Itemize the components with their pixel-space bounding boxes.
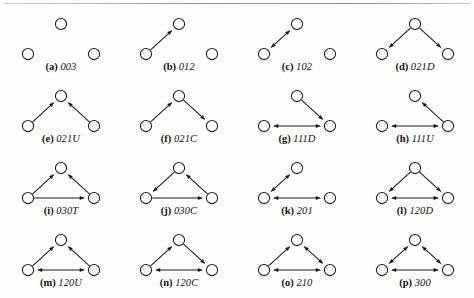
edge-top-to-right-asymmetric: [184, 100, 205, 119]
triad-node-left: [140, 48, 151, 59]
panel-caption-111D: (g) 111D: [238, 133, 356, 145]
triad-node-left: [22, 120, 33, 131]
triad-panel-300: (p) 300: [356, 224, 474, 296]
edge-top-to-left-asymmetric: [390, 28, 411, 47]
triad-node-top: [291, 90, 302, 101]
edge-left-to-top-asymmetric: [33, 175, 54, 194]
arrowhead-left-to-right: [316, 268, 320, 271]
edge-left-to-top-asymmetric: [33, 103, 54, 122]
triad-node-left: [376, 48, 387, 59]
triad-node-right: [88, 192, 99, 203]
panel-letter: (g): [278, 133, 290, 144]
triad-node-right: [442, 264, 453, 275]
triad-diagram-120U: [2, 224, 120, 280]
arrowhead-right-to-left: [156, 268, 160, 271]
panel-letter: (n): [160, 277, 173, 288]
edge-top-to-left-asymmetric: [154, 172, 175, 191]
panel-triad-code: 021D: [411, 61, 435, 72]
page-top-rule: [4, 3, 470, 4]
edge-top-to-right-asymmetric: [420, 172, 441, 191]
panel-letter: (j): [161, 205, 172, 216]
triad-panel-021D: (d) 021D: [356, 8, 474, 80]
triad-node-left: [140, 264, 151, 275]
panel-triad-code: 111D: [293, 133, 315, 144]
triad-census-figure: (a) 003(b) 012(c) 102(d) 021D(e) 021U(f)…: [0, 0, 474, 298]
triad-node-top: [55, 90, 66, 101]
triad-node-left: [376, 192, 387, 203]
triad-node-left: [22, 48, 33, 59]
arrowhead-right-to-left: [274, 124, 278, 127]
panel-letter: (p): [399, 277, 412, 288]
panel-letter: (b): [163, 61, 176, 72]
triad-diagram-111U: [356, 80, 474, 136]
panel-triad-code: 003: [60, 61, 76, 72]
arrowhead-left-to-right: [80, 268, 84, 271]
arrowhead-left-to-right: [80, 196, 84, 199]
triad-node-top: [409, 162, 420, 173]
arrowhead-right-to-left: [274, 196, 278, 199]
triad-node-right: [206, 192, 217, 203]
panel-letter: (c): [282, 61, 294, 72]
triad-panel-003: (a) 003: [2, 8, 120, 80]
triad-node-right: [442, 48, 453, 59]
arrowhead-right-to-left: [274, 268, 278, 271]
triad-diagram-030T: [2, 152, 120, 208]
panel-triad-code: 300: [415, 277, 431, 288]
triad-node-top: [55, 18, 66, 29]
triad-node-left: [22, 264, 33, 275]
panel-triad-code: 120C: [175, 277, 198, 288]
triad-node-right: [206, 264, 217, 275]
panel-triad-code: 030C: [174, 205, 197, 216]
edge-right-to-top-asymmetric: [69, 247, 90, 266]
edge-left-to-top-asymmetric: [151, 247, 172, 266]
triad-diagram-111D: [238, 80, 356, 136]
triad-node-top: [173, 18, 184, 29]
panel-caption-003: (a) 003: [2, 61, 120, 73]
panel-triad-code: 021U: [56, 133, 80, 144]
triad-node-top: [55, 162, 66, 173]
panel-caption-021C: (f) 021C: [120, 133, 238, 145]
panel-caption-021D: (d) 021D: [356, 61, 474, 73]
triad-diagram-102: [238, 8, 356, 64]
panel-letter: (k): [281, 205, 294, 216]
triad-node-top: [173, 234, 184, 245]
arrowhead-left-to-right: [434, 268, 438, 271]
triad-node-left: [258, 192, 269, 203]
triad-diagram-012: [120, 8, 238, 64]
panel-caption-030T: (i) 030T: [2, 205, 120, 217]
triad-panel-120D: (l) 120D: [356, 152, 474, 224]
triad-diagram-030C: [120, 152, 238, 208]
triad-node-right: [442, 192, 453, 203]
triad-node-top: [173, 90, 184, 101]
triad-diagram-120C: [120, 224, 238, 280]
triad-panel-111U: (h) 111U: [356, 80, 474, 152]
edge-left-to-top-asymmetric: [151, 103, 172, 122]
triad-node-right: [324, 120, 335, 131]
edge-right-to-top-asymmetric: [69, 103, 90, 122]
triad-node-right: [88, 120, 99, 131]
panel-caption-120D: (l) 120D: [356, 205, 474, 217]
triad-panel-021U: (e) 021U: [2, 80, 120, 152]
triad-panel-021C: (f) 021C: [120, 80, 238, 152]
edge-right-to-top-asymmetric: [187, 175, 208, 194]
panel-caption-021U: (e) 021U: [2, 133, 120, 145]
panel-caption-102: (c) 102: [238, 61, 356, 73]
edge-top-to-right-asymmetric: [420, 28, 441, 47]
triad-diagram-003: [2, 8, 120, 64]
triad-panel-grid: (a) 003(b) 012(c) 102(d) 021D(e) 021U(f)…: [0, 8, 474, 298]
edge-right-to-top-asymmetric: [423, 103, 444, 122]
triad-node-left: [258, 264, 269, 275]
triad-node-left: [258, 48, 269, 59]
triad-node-left: [140, 120, 151, 131]
panel-caption-030C: (j) 030C: [120, 205, 238, 217]
arrowhead-left-to-right: [316, 124, 320, 127]
triad-diagram-300: [356, 224, 474, 280]
triad-node-top: [291, 162, 302, 173]
panel-triad-code: 111U: [412, 133, 434, 144]
triad-diagram-210: [238, 224, 356, 280]
triad-diagram-201: [238, 152, 356, 208]
arrowhead-right-to-left: [392, 268, 396, 271]
triad-node-top: [291, 18, 302, 29]
panel-triad-code: 021C: [174, 133, 197, 144]
triad-node-right: [88, 48, 99, 59]
